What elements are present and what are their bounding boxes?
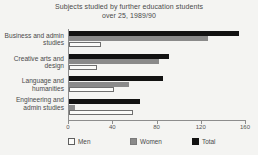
bar-women-group-1 — [69, 36, 208, 41]
chart-legend: MenWomenTotal — [68, 138, 248, 150]
category-label-4: Engineering and admin studies — [0, 96, 64, 111]
legend-item-women[interactable]: Women — [130, 138, 162, 145]
bar-women-group-4 — [69, 105, 75, 110]
category-label-2: Creative arts and design — [0, 55, 64, 70]
chart-title-line-1: Subjects studied by further education st… — [0, 2, 258, 11]
bar-women-group-3 — [69, 82, 129, 87]
bar-total-group-1 — [69, 31, 239, 36]
category-axis-labels: Business and admin studiesCreative arts … — [0, 29, 64, 120]
x-axis-tick-label: 0 — [66, 124, 69, 130]
bar-total-group-2 — [69, 54, 169, 59]
bar-women-group-2 — [69, 59, 159, 64]
legend-item-men[interactable]: Men — [68, 138, 90, 145]
x-axis-tick-label: 80 — [153, 124, 160, 130]
bar-men-group-2 — [69, 65, 97, 70]
legend-swatch-women-icon — [130, 138, 137, 145]
bar-men-group-3 — [69, 87, 114, 92]
plot-area: 04080120160 — [68, 29, 245, 120]
x-axis-tick-label: 160 — [240, 124, 250, 130]
chart-title: Subjects studied by further education st… — [0, 2, 258, 20]
bar-men-group-4 — [69, 110, 133, 115]
category-label-1: Business and admin studies — [0, 32, 64, 47]
bar-men-group-1 — [69, 42, 101, 47]
x-axis-tick-label: 40 — [109, 124, 116, 130]
legend-item-total[interactable]: Total — [192, 138, 216, 145]
legend-label-women: Women — [140, 138, 162, 145]
bar-total-group-3 — [69, 76, 163, 81]
category-label-3: Language and humanities — [0, 77, 64, 92]
legend-label-total: Total — [202, 138, 216, 145]
legend-label-men: Men — [78, 138, 90, 145]
legend-swatch-total-icon — [192, 138, 199, 145]
x-axis-tick-label: 120 — [196, 124, 206, 130]
chart-figure: Subjects studied by further education st… — [0, 0, 258, 155]
chart-title-line-2: over 25, 1989/90 — [0, 11, 258, 20]
bar-total-group-4 — [69, 99, 140, 104]
legend-swatch-men-icon — [68, 138, 75, 145]
